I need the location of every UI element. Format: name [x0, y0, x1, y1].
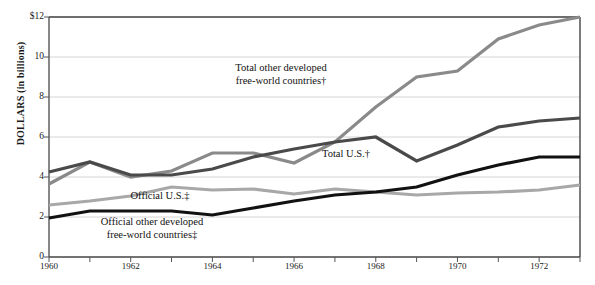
annotation-line: free-world countries†: [235, 75, 326, 88]
plot-area: [0, 0, 595, 285]
annot-total-other: Total other developedfree-world countrie…: [235, 62, 326, 87]
line-chart: DOLLARS (in billions) 0246810$12 1960196…: [0, 0, 595, 285]
x-tick-label: 1962: [122, 262, 140, 271]
series-line-0: [49, 17, 580, 184]
annot-total-us: Total U.S.†: [322, 148, 370, 161]
series-line-2: [49, 185, 580, 205]
annotation-line: free-world countries‡: [101, 229, 203, 242]
annot-official-other: Official other developedfree-world count…: [101, 216, 203, 241]
annotation-line: Official other developed: [101, 216, 203, 229]
x-tick-label: 1966: [285, 262, 303, 271]
annotation-line: Total other developed: [235, 62, 326, 75]
x-tick-label: 1964: [203, 262, 221, 271]
series-line-3: [49, 157, 580, 218]
x-tick-label: 1968: [367, 262, 385, 271]
annotation-line: Total U.S.†: [322, 148, 370, 161]
annotation-line: Official U.S.‡: [130, 190, 189, 203]
series-line-1: [49, 118, 580, 175]
x-tick-label: 1960: [40, 262, 58, 271]
x-tick-label: 1970: [448, 262, 466, 271]
x-tick-label: 1972: [530, 262, 548, 271]
annot-official-us: Official U.S.‡: [130, 190, 189, 203]
